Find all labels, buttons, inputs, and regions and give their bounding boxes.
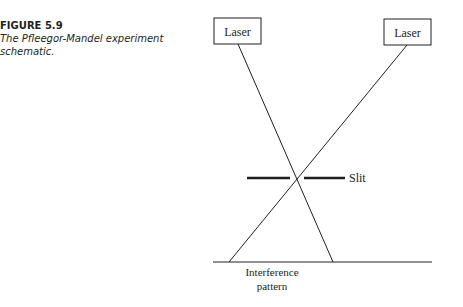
- slit-label: Slit: [349, 171, 366, 185]
- screen-label-line2: pattern: [257, 280, 288, 292]
- screen-label-line1: Interference: [245, 266, 298, 278]
- laser-right-label: Laser: [394, 26, 421, 40]
- beam-right: [229, 45, 407, 262]
- laser-left-label: Laser: [224, 25, 251, 39]
- experiment-schematic: Laser Laser Slit Interference pattern: [0, 0, 463, 307]
